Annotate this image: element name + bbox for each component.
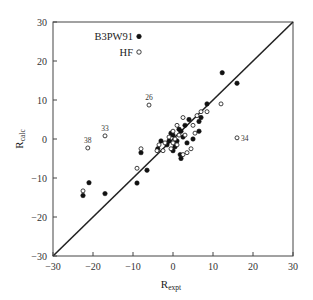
annotation-label: 26 bbox=[145, 93, 153, 102]
legend-filled-marker-icon bbox=[137, 34, 141, 38]
annotation-label: 33 bbox=[101, 124, 109, 133]
hf-point bbox=[181, 153, 185, 157]
b3pw91-point bbox=[179, 156, 183, 160]
x-tick-label: 10 bbox=[208, 261, 218, 272]
y-tick-label: −10 bbox=[31, 173, 47, 184]
x-tick-label: −20 bbox=[85, 261, 101, 272]
b3pw91-point bbox=[205, 102, 209, 106]
b3pw91-point bbox=[87, 180, 91, 184]
scatter-chart: −30−20−100102030 −30−20−100102030 383326… bbox=[0, 0, 313, 300]
hf-point bbox=[171, 141, 175, 145]
hf-point bbox=[175, 123, 179, 127]
hf-point bbox=[157, 143, 161, 147]
y-tick-label: 20 bbox=[37, 56, 47, 67]
b3pw91-point bbox=[197, 129, 201, 133]
data-points bbox=[81, 71, 239, 198]
b3pw91-point bbox=[179, 129, 183, 133]
hf-point bbox=[147, 103, 151, 107]
legend-label: B3PW91 bbox=[94, 31, 133, 42]
annotation-label: 38 bbox=[84, 136, 92, 145]
hf-point bbox=[185, 151, 189, 155]
x-tick-label: −30 bbox=[45, 261, 61, 272]
hf-point bbox=[86, 146, 90, 150]
hf-point bbox=[177, 133, 181, 137]
b3pw91-point bbox=[191, 137, 195, 141]
y-tick-label: 10 bbox=[37, 95, 47, 106]
x-tick-label: 0 bbox=[171, 261, 176, 272]
hf-point bbox=[161, 149, 165, 153]
hf-point bbox=[191, 123, 195, 127]
b3pw91-point bbox=[145, 168, 149, 172]
hf-point bbox=[219, 102, 223, 106]
hf-point bbox=[103, 134, 107, 138]
hf-point bbox=[167, 135, 171, 139]
hf-point bbox=[205, 110, 209, 114]
b3pw91-point bbox=[235, 81, 239, 85]
x-tick-label: 20 bbox=[248, 261, 258, 272]
b3pw91-point bbox=[81, 193, 85, 197]
hf-point bbox=[195, 114, 199, 118]
legend: B3PW91HF bbox=[94, 31, 141, 58]
hf-point bbox=[181, 116, 185, 120]
annotation-label: 34 bbox=[241, 134, 249, 143]
b3pw91-point bbox=[135, 181, 139, 185]
x-axis: −30−20−100102030 bbox=[45, 252, 298, 272]
y-tick-label: 30 bbox=[37, 17, 47, 28]
b3pw91-point bbox=[199, 115, 203, 119]
hf-point bbox=[193, 131, 197, 135]
hf-point bbox=[199, 110, 203, 114]
y-tick-label: −30 bbox=[31, 251, 47, 262]
hf-point bbox=[171, 129, 175, 133]
hf-point bbox=[173, 137, 177, 141]
hf-point bbox=[183, 133, 187, 137]
hf-point bbox=[163, 141, 167, 145]
hf-point bbox=[175, 143, 179, 147]
hf-point bbox=[189, 147, 193, 151]
hf-point bbox=[135, 166, 139, 170]
b3pw91-point bbox=[183, 123, 187, 127]
legend-label: HF bbox=[120, 47, 134, 58]
y-axis-title: Rcalc bbox=[13, 129, 27, 149]
b3pw91-point bbox=[220, 71, 224, 75]
hf-point bbox=[81, 189, 85, 193]
hf-point bbox=[235, 136, 239, 140]
hf-point bbox=[139, 147, 143, 151]
x-axis-title: Rexpt bbox=[161, 278, 182, 292]
y-tick-label: −20 bbox=[31, 212, 47, 223]
x-tick-label: −10 bbox=[125, 261, 141, 272]
b3pw91-point bbox=[159, 139, 163, 143]
b3pw91-point bbox=[185, 141, 189, 145]
point-annotations: 38332634 bbox=[84, 93, 249, 145]
hf-point bbox=[155, 149, 159, 153]
x-tick-label: 30 bbox=[288, 261, 298, 272]
hf-point bbox=[169, 147, 173, 151]
b3pw91-point bbox=[187, 117, 191, 121]
y-tick-label: 0 bbox=[42, 134, 47, 145]
legend-open-marker-icon bbox=[137, 50, 141, 54]
b3pw91-point bbox=[103, 191, 107, 195]
